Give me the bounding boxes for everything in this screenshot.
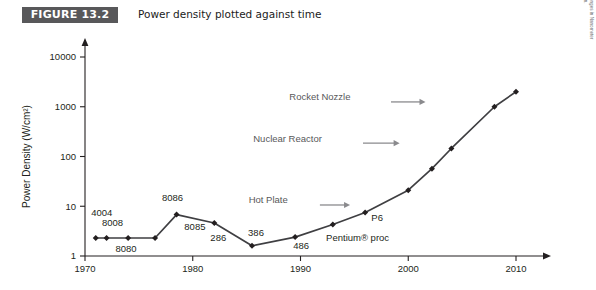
chart-annotations: Hot PlateNuclear ReactorRocket Nozzle xyxy=(249,91,426,208)
source-credit-line-2: Multicore Era.” Reprinted with permissio… xyxy=(581,0,587,78)
data-point-label: 286 xyxy=(210,232,226,243)
data-point-marker xyxy=(362,209,368,215)
annotation-arrowhead xyxy=(394,140,400,146)
data-point-label: 8085 xyxy=(184,221,205,232)
annotation-label: Hot Plate xyxy=(249,194,288,205)
x-tick-label: 1980 xyxy=(182,263,203,274)
power-density-line-chart: 11010010001000019701980199020002010 4004… xyxy=(0,30,596,290)
y-tick-label: 1 xyxy=(71,250,76,261)
annotation-label: Rocket Nozzle xyxy=(289,91,350,102)
data-point-label: 8086 xyxy=(162,192,183,203)
y-tick-label: 100 xyxy=(60,151,76,162)
chart-axes xyxy=(80,38,551,261)
data-point-marker xyxy=(93,235,99,241)
x-tick-label: 2010 xyxy=(505,263,526,274)
data-point-marker xyxy=(104,235,110,241)
figure-header: FIGURE 13.2 Power density plotted agains… xyxy=(0,0,596,30)
source-credit: Christos Kozyrakis and Intel, “Low Power… xyxy=(581,0,594,78)
chart-y-axis-title: Power Density (W/cm²) xyxy=(21,105,32,208)
chart-point-labels: 4004800880808086286386486P68085Pentium® … xyxy=(91,192,389,254)
chart-series xyxy=(96,92,516,246)
y-tick-label: 1000 xyxy=(55,101,76,112)
x-tick-label: 2000 xyxy=(398,263,419,274)
data-point-label: P6 xyxy=(371,212,383,223)
data-point-label: 8080 xyxy=(116,243,137,254)
chart-tick-labels: 11010010001000019701980199020002010 xyxy=(50,51,527,274)
annotation-label: Nuclear Reactor xyxy=(253,133,322,144)
annotation-arrowhead xyxy=(419,99,425,105)
x-axis-arrowhead xyxy=(543,253,551,260)
x-tick-label: 1990 xyxy=(290,263,311,274)
figure-number-badge: FIGURE 13.2 xyxy=(22,7,118,23)
chart-plot-area: 11010010001000019701980199020002010 4004… xyxy=(0,30,596,290)
data-point-marker xyxy=(330,221,336,227)
x-tick-label: 1970 xyxy=(74,263,95,274)
figure-caption: Power density plotted against time xyxy=(138,8,321,20)
annotation-arrowhead xyxy=(344,202,350,208)
source-credit-line-1: Christos Kozyrakis and Intel, “Low Power… xyxy=(588,0,594,78)
series-line xyxy=(96,92,516,246)
y-tick-label: 10 xyxy=(65,201,76,212)
y-tick-label: 10000 xyxy=(50,51,76,62)
data-point-label: 386 xyxy=(248,227,264,238)
data-point-marker xyxy=(125,235,131,241)
y-axis-arrowhead xyxy=(82,38,89,46)
data-point-label: 486 xyxy=(293,240,309,251)
data-point-label: Pentium® proc xyxy=(326,232,389,243)
chart-data-markers xyxy=(93,89,519,249)
y-axis-title: Power Density (W/cm²) xyxy=(21,105,32,208)
data-point-label: 8008 xyxy=(102,217,123,228)
